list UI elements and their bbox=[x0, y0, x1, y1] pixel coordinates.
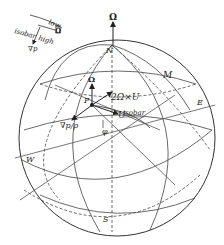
south-label: S bbox=[103, 215, 109, 224]
west-label: W bbox=[26, 155, 35, 164]
east-label: E bbox=[196, 98, 203, 107]
isobar-label: isobar bbox=[123, 109, 146, 117]
pressure-gradient-label: ∇p/ρ bbox=[60, 121, 78, 130]
latitude-angle-label: φ bbox=[102, 127, 108, 136]
inset-isobar-label: isobar bbox=[13, 27, 37, 41]
coriolis-arrow bbox=[92, 92, 112, 105]
north-label: N bbox=[105, 46, 114, 55]
earth-diagram: Ω N S E W M P Ω 2Ω×U U isobar ∇p/ρ φ low… bbox=[0, 0, 224, 245]
inset-gradient-label: ∇p bbox=[28, 45, 38, 53]
point-p-label: P bbox=[83, 96, 90, 105]
inset: low Ω isobar high ∇p bbox=[13, 15, 62, 53]
sphere-outline bbox=[19, 40, 215, 236]
inset-high-label: high bbox=[37, 34, 54, 46]
local-omega-label: Ω bbox=[88, 74, 95, 84]
inset-omega-mark: Ω bbox=[55, 26, 61, 35]
coriolis-label: 2Ω×U bbox=[110, 92, 140, 102]
pressure-gradient-arrow bbox=[72, 105, 92, 120]
meridian-label: M bbox=[162, 70, 173, 80]
axis-omega-label: Ω bbox=[109, 12, 117, 22]
